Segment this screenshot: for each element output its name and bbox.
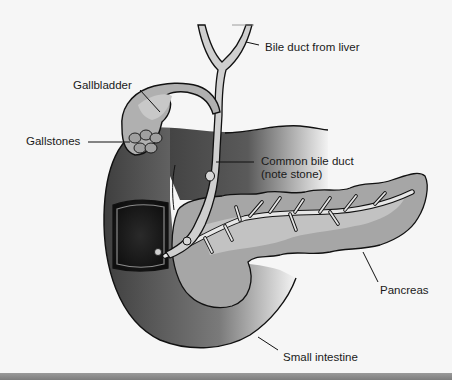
bottom-bar: [0, 373, 452, 380]
duodenal-opening: [113, 200, 168, 271]
anatomy-illustration: [0, 0, 452, 380]
label-common-bile-duct-note: (note stone): [261, 168, 322, 181]
label-small-intestine: Small intestine: [283, 351, 358, 364]
label-common-bile-duct: Common bile duct: [261, 155, 354, 168]
label-pancreas: Pancreas: [380, 284, 429, 297]
label-gallbladder: Gallbladder: [73, 79, 132, 92]
label-gallstones: Gallstones: [26, 135, 80, 148]
label-bile-duct-from-liver: Bile duct from liver: [265, 41, 360, 54]
diagram-canvas: Bile duct from liver Gallbladder Gallsto…: [0, 0, 452, 380]
